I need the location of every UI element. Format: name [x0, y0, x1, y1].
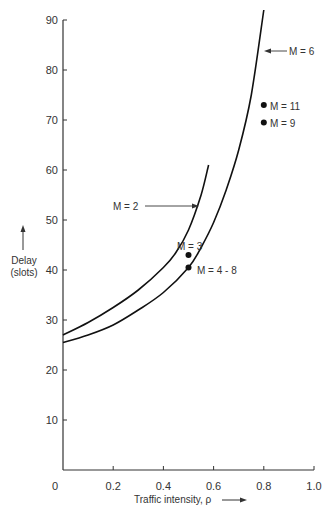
y-axis-arrowhead-icon [21, 225, 26, 232]
y-tick-label: 30 [46, 314, 58, 326]
label-m2: M = 2 [113, 201, 139, 212]
label-m9: M = 9 [270, 118, 296, 129]
point-m-4-8 [186, 265, 192, 271]
y-tick-label: 10 [46, 414, 58, 426]
point-m-3 [186, 252, 192, 258]
curves [63, 10, 264, 343]
y-axis-label-line2: (slots) [10, 267, 37, 278]
x-tick-label: 0.8 [256, 480, 271, 492]
annotations: M = 2 M = 6 M = 3 M = 4 - 8 M = 11 M = 9 [113, 46, 315, 276]
label-m11: M = 11 [270, 101, 301, 112]
x-tick-label: 1.0 [306, 480, 321, 492]
label-m4-8: M = 4 - 8 [197, 265, 237, 276]
y-tick-label: 60 [46, 164, 58, 176]
label-m6: M = 6 [289, 46, 315, 57]
y-tick-label: 20 [46, 364, 58, 376]
y-tick-label: 40 [46, 264, 58, 276]
y-axis-title: Delay (slots) [10, 225, 37, 278]
y-tick-label: 50 [46, 214, 58, 226]
y-axis-label-line1: Delay [11, 255, 37, 266]
curve-m-6 [63, 10, 264, 343]
delay-vs-traffic-chart: 102030405060708090 0.20.40.60.81.0 0 Del… [0, 0, 335, 518]
x-tick-label: 0.6 [206, 480, 221, 492]
x-axis-arrowhead-icon [240, 498, 247, 503]
point-m-11 [261, 102, 267, 108]
m6-arrowhead-icon [264, 49, 271, 54]
y-tick-label: 90 [46, 14, 58, 26]
x-tick-label: 0.4 [156, 480, 171, 492]
x-tick-label: 0.2 [106, 480, 121, 492]
origin-label: 0 [52, 480, 58, 492]
point-m-9 [261, 120, 267, 126]
x-axis-title: Traffic intensity, ρ [134, 494, 247, 505]
y-ticks: 102030405060708090 [46, 14, 67, 426]
y-tick-label: 80 [46, 64, 58, 76]
y-tick-label: 70 [46, 114, 58, 126]
label-m3: M = 3 [177, 241, 203, 252]
x-axis-label: Traffic intensity, ρ [134, 494, 212, 505]
